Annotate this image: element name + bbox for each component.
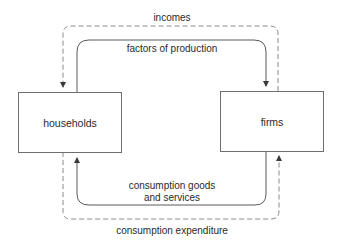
households-node: households	[19, 93, 122, 153]
households-label: households	[43, 117, 97, 129]
incomes-flow-line	[63, 26, 278, 91]
incomes-label: incomes	[153, 12, 190, 23]
consumption-expenditure-label: consumption expenditure	[116, 225, 228, 236]
consumption-goods-label-line1: consumption goods	[129, 180, 216, 191]
circular-flow-diagram: households firms incomes factors of prod…	[0, 0, 337, 241]
consumption-goods-label-line2: and services	[144, 192, 200, 203]
firms-label: firms	[261, 116, 284, 128]
factors-of-production-label: factors of production	[127, 43, 218, 54]
firms-node: firms	[221, 92, 324, 152]
